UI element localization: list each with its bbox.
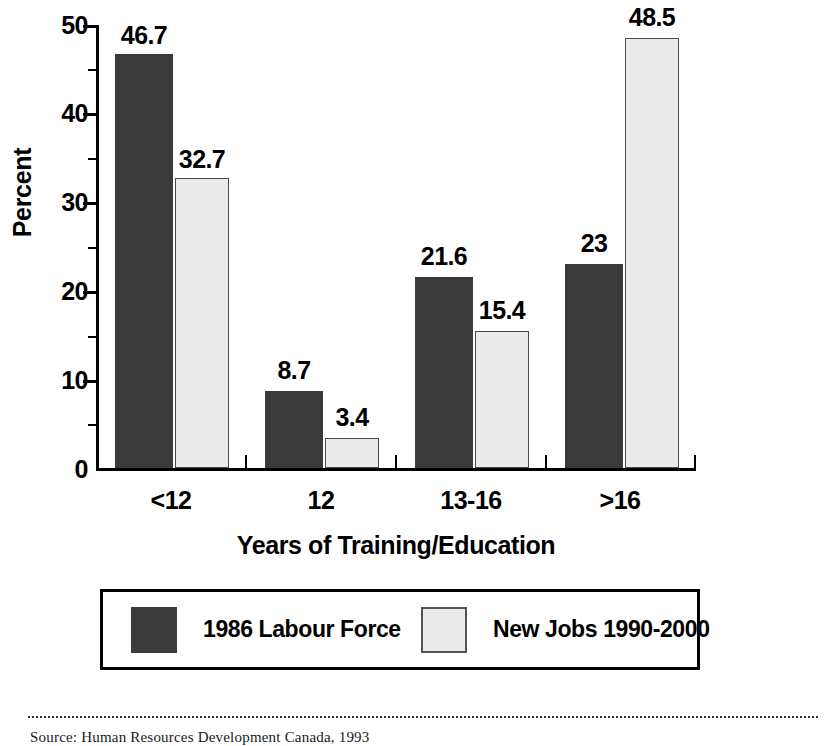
legend-entry-label: 1986 Labour Force [203,616,401,643]
footer-divider [28,716,818,720]
y-tick-label: 40 [40,101,88,126]
bar-value-label: 23 [581,229,608,258]
y-tick-minor [88,247,96,249]
x-category-label: 13-16 [440,486,501,515]
bar-value-label: 32.7 [179,145,225,174]
chart-legend: 1986 Labour Force New Jobs 1990-2000 [100,589,700,670]
y-tick-major [83,291,96,294]
y-tick-major [83,113,96,116]
y-tick-label: 30 [40,190,88,215]
legend-entry-new-jobs[interactable]: New Jobs 1990-2000 [421,607,710,653]
legend-entry-1986-labour-force[interactable]: 1986 Labour Force [131,607,401,653]
bar-value-label: 21.6 [421,242,467,271]
bar-value-label: 3.4 [336,403,369,432]
bar-series1-cat2[interactable] [475,331,529,468]
y-tick-major [83,25,96,28]
y-axis-title: Percent [8,123,37,263]
bars-layer: 46.7 32.7 8.7 3.4 21.6 15.4 23 48.5 [99,25,696,468]
y-tick-label: 20 [40,279,88,304]
legend-swatch-dark-icon [131,607,177,653]
y-tick-label: 0 [40,457,88,482]
legend-items: 1986 Labour Force New Jobs 1990-2000 [103,592,697,667]
y-tick-minor [88,424,96,426]
bar-series1-cat3[interactable] [625,38,679,468]
y-tick-label: 50 [40,13,88,38]
y-tick-minor [88,336,96,338]
source-note: Source: Human Resources Development Cana… [30,729,370,746]
bar-series0-cat1[interactable] [265,391,323,468]
x-axis-title: Years of Training/Education [96,531,696,560]
x-category-label: 12 [308,486,335,515]
bar-series0-cat2[interactable] [415,277,473,468]
y-tick-major [83,380,96,383]
y-tick-label: 10 [40,368,88,393]
y-tick-major [83,202,96,205]
bar-series1-cat0[interactable] [175,178,229,468]
plot-area: Percent 50 40 30 20 10 0 [0,0,835,500]
y-tick-minor [88,158,96,160]
bar-series1-cat1[interactable] [325,438,379,468]
legend-entry-label: New Jobs 1990-2000 [493,616,710,643]
bar-value-label: 8.7 [278,356,311,385]
bar-series0-cat0[interactable] [115,54,173,468]
bar-value-label: 46.7 [121,21,167,50]
bar-series0-cat3[interactable] [565,264,623,468]
legend-swatch-light-icon [421,607,467,653]
bar-value-label: 48.5 [629,3,675,32]
bar-value-label: 15.4 [479,296,525,325]
y-tick-minor [88,69,96,71]
y-axis-tick-labels: 50 40 30 20 10 0 [36,0,88,500]
x-category-label: <12 [151,486,192,515]
x-category-label: >16 [600,486,641,515]
